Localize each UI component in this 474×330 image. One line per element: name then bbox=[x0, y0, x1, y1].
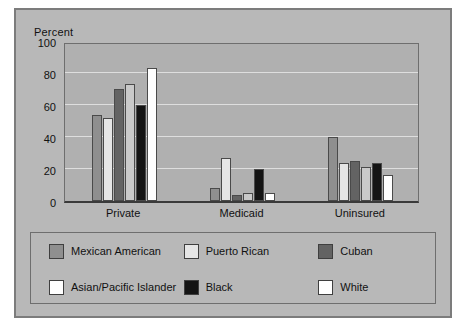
bars-layer bbox=[65, 44, 418, 201]
bar bbox=[372, 163, 382, 201]
bar bbox=[383, 175, 393, 201]
bar bbox=[339, 163, 349, 201]
legend-label: Puerto Rican bbox=[206, 245, 270, 257]
y-axis-ticks: 020406080100 bbox=[16, 43, 62, 203]
bar bbox=[114, 89, 124, 201]
y-axis-tick-label: 80 bbox=[44, 69, 56, 81]
bar bbox=[136, 105, 146, 201]
x-axis-tick-label: Private bbox=[106, 207, 140, 219]
bar-group bbox=[183, 44, 301, 201]
chart-legend: Mexican AmericanPuerto RicanCubanAsian/P… bbox=[30, 232, 436, 304]
legend-row: Asian/Pacific IslanderBlackWhite bbox=[31, 269, 435, 305]
bar-group bbox=[65, 44, 183, 201]
bar bbox=[125, 84, 135, 201]
y-axis-tick-label: 40 bbox=[44, 133, 56, 145]
y-axis-tick-label: 100 bbox=[38, 37, 56, 49]
bar bbox=[265, 193, 275, 201]
legend-label: Asian/Pacific Islander bbox=[71, 281, 176, 293]
legend-swatch bbox=[318, 244, 333, 259]
bar-group bbox=[302, 44, 420, 201]
x-axis-tick-label: Medicaid bbox=[219, 207, 263, 219]
legend-label: Cuban bbox=[340, 245, 372, 257]
legend-item[interactable]: Black bbox=[166, 280, 301, 295]
legend-swatch bbox=[184, 280, 199, 295]
bar bbox=[147, 68, 157, 201]
plot-area bbox=[64, 43, 419, 203]
legend-item[interactable]: White bbox=[300, 280, 435, 295]
legend-swatch bbox=[184, 244, 199, 259]
y-axis-tick-label: 60 bbox=[44, 101, 56, 113]
legend-swatch bbox=[49, 244, 64, 259]
chart-region: Percent 020406080100 PrivateMedicaidUnin… bbox=[16, 10, 450, 228]
legend-label: Black bbox=[206, 281, 233, 293]
bar bbox=[103, 118, 113, 201]
x-axis-ticks: PrivateMedicaidUninsured bbox=[64, 207, 419, 227]
chart-figure: Percent 020406080100 PrivateMedicaidUnin… bbox=[14, 8, 452, 318]
legend-item[interactable]: Mexican American bbox=[31, 244, 166, 259]
bar bbox=[210, 188, 220, 201]
bar bbox=[350, 161, 360, 201]
x-axis-tick-label: Uninsured bbox=[335, 207, 385, 219]
legend-label: White bbox=[340, 281, 368, 293]
bar bbox=[243, 193, 253, 201]
legend-label: Mexican American bbox=[71, 245, 161, 257]
legend-swatch bbox=[318, 280, 333, 295]
bar bbox=[361, 167, 371, 201]
y-axis-tick-label: 20 bbox=[44, 165, 56, 177]
y-axis-tick-label: 0 bbox=[50, 197, 56, 209]
bar bbox=[328, 137, 338, 201]
legend-item[interactable]: Asian/Pacific Islander bbox=[31, 280, 166, 295]
legend-row: Mexican AmericanPuerto RicanCuban bbox=[31, 233, 435, 269]
bar bbox=[254, 169, 264, 201]
bar bbox=[221, 158, 231, 201]
bar bbox=[232, 195, 242, 201]
legend-swatch bbox=[49, 280, 64, 295]
legend-item[interactable]: Cuban bbox=[300, 244, 435, 259]
bar bbox=[92, 115, 102, 201]
legend-item[interactable]: Puerto Rican bbox=[166, 244, 301, 259]
